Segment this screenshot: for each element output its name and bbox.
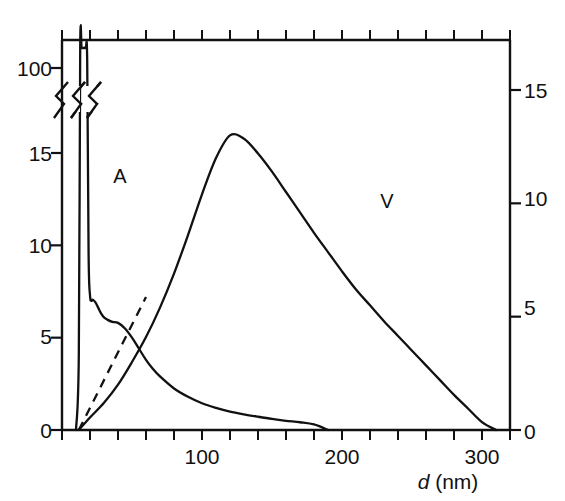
x-axis-title-symbol: d [418, 470, 430, 493]
y-axis-left-ticks [51, 68, 62, 430]
curve-dashed-reference [79, 297, 146, 430]
figure-panel: 100 15 10 5 0 15 10 5 0 100 200 300 d (n… [0, 0, 565, 501]
y-right-tick-label-5: 5 [524, 297, 536, 318]
curve-label-v: V [380, 191, 393, 211]
y-left-tick-label-15: 15 [0, 143, 52, 164]
curve-a [76, 25, 328, 430]
y-right-tick-label-15: 15 [524, 80, 547, 101]
y-right-tick-label-0: 0 [524, 421, 536, 442]
y-axis-right-ticks [510, 90, 521, 430]
x-axis-title-unit: (nm) [429, 470, 478, 493]
x-axis-ticks-top [62, 30, 510, 40]
y-right-tick-label-10: 10 [524, 188, 547, 209]
x-axis-ticks-bottom [62, 430, 510, 440]
curve-label-a: A [113, 166, 126, 186]
axis-frame [62, 40, 510, 430]
x-tick-label-200: 200 [324, 446, 359, 467]
y-left-tick-label-100: 100 [0, 58, 52, 79]
plot-area [0, 0, 565, 501]
curve-v [79, 134, 496, 430]
x-tick-label-100: 100 [184, 446, 219, 467]
y-left-tick-label-0: 0 [0, 420, 52, 441]
y-left-tick-label-5: 5 [0, 326, 52, 347]
y-left-tick-label-10: 10 [0, 235, 52, 256]
x-tick-label-300: 300 [464, 446, 499, 467]
x-axis-title: d (nm) [418, 471, 479, 492]
